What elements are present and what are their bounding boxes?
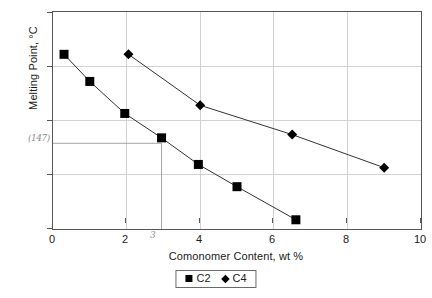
x-axis-hand-annotation: 3 [150, 230, 155, 240]
legend-entry-c2: C2 [185, 273, 210, 284]
x-tick-label-4: 4 [179, 234, 219, 245]
melting-point-chart: Melting Point, °C 170 160 150 140 130 (1… [0, 0, 432, 298]
data-point-c2-4 [194, 160, 203, 169]
legend-entry-c4: C4 [223, 273, 247, 284]
x-tick-mark-4 [199, 218, 200, 223]
x-tick-label-6: 6 [252, 234, 292, 245]
series-line-c2 [64, 54, 296, 219]
square-marker-icon [185, 275, 192, 282]
x-tick-mark-10 [420, 218, 421, 223]
legend-label-c2: C2 [196, 273, 210, 284]
data-point-c2-1 [85, 77, 94, 86]
data-point-c2-3 [157, 133, 166, 142]
data-point-c4-3 [379, 163, 389, 173]
series-line-c4 [128, 54, 384, 167]
data-point-c4-2 [287, 130, 297, 140]
data-point-c2-2 [120, 109, 129, 118]
x-tick-mark-0 [52, 218, 53, 223]
series-layer [53, 12, 421, 229]
data-point-c4-1 [195, 100, 205, 110]
x-tick-mark-6 [272, 218, 273, 223]
data-point-c2-6 [291, 215, 300, 224]
plot-area [52, 11, 422, 230]
y-axis-title: Melting Point, °C [27, 0, 39, 148]
x-tick-label-10: 10 [400, 234, 432, 245]
x-tick-mark-2 [125, 218, 126, 223]
x-tick-label-2: 2 [105, 234, 145, 245]
x-tick-label-0: 0 [32, 234, 72, 245]
y-axis-hand-annotation: (147) [28, 133, 50, 143]
data-point-c2-0 [60, 50, 69, 59]
legend-label-c4: C4 [233, 273, 247, 284]
x-tick-label-8: 8 [326, 234, 366, 245]
x-axis-title: Comonomer Content, wt % [52, 250, 420, 262]
x-tick-mark-8 [346, 218, 347, 223]
legend: C2 C4 [175, 270, 256, 288]
diamond-marker-icon [221, 274, 229, 282]
data-point-c4-0 [123, 49, 133, 59]
data-point-c2-5 [233, 182, 242, 191]
